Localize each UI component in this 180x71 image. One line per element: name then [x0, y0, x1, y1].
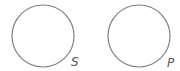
circle-group-s: S — [12, 5, 79, 69]
circle-s-label: S — [71, 55, 79, 69]
two-circle-diagram: S P — [0, 0, 180, 71]
circle-p — [108, 5, 170, 67]
circle-s — [12, 5, 74, 67]
circle-group-p: P — [108, 5, 175, 70]
circle-p-label: P — [167, 56, 175, 70]
